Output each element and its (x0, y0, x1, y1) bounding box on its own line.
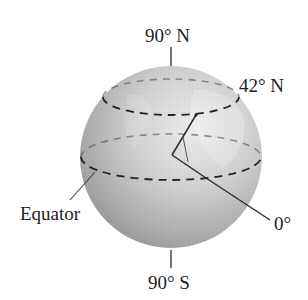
label-equator: Equator (20, 203, 81, 224)
label-south-pole: 90° S (148, 272, 190, 293)
label-zero-degree: 0° (274, 213, 291, 234)
globe-texture (80, 66, 262, 248)
globe-diagram: 90° N 42° N Equator 0° 90° S (0, 0, 308, 300)
label-latitude-42: 42° N (239, 75, 284, 96)
label-north-pole: 90° N (145, 25, 190, 46)
point-42N (194, 113, 197, 116)
